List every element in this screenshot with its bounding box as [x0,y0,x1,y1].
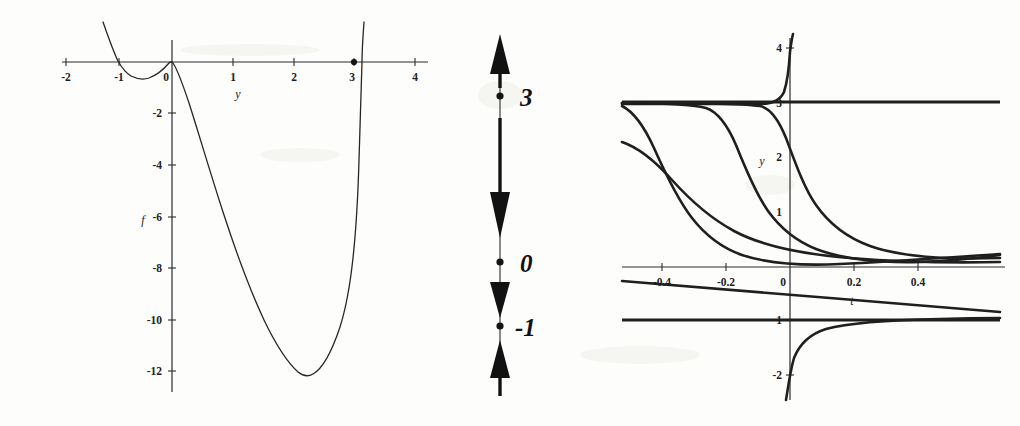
left-xtick-label-2: 0 [163,71,169,83]
right-ttick-label-3: 0.2 [847,276,862,288]
right-ytick-label--2: -2 [772,369,782,381]
left-ytick-label-0: -2 [152,107,162,119]
left-xtick-label-0: -2 [61,71,71,83]
right-ttick-label-1: -0.2 [717,276,735,288]
left-root-marker [351,59,357,65]
figure-container: -2 -1 0 1 2 3 4 -2 -4 -6 -8 -10 -12 y f … [0,0,1020,426]
left-xtick-label-6: 4 [412,71,418,83]
right-ttick-label-4: 0.4 [911,276,926,288]
right-yaxis-label: y [758,154,765,168]
phase-label-3: 3 [519,84,533,111]
phase-label-0: 0 [520,250,533,277]
left-xtick-label-5: 3 [349,71,355,83]
left-ytick-label-5: -12 [147,365,163,377]
right-ytick-label-1: 1 [776,206,782,218]
right-ytick-label-2: 2 [776,151,782,163]
phase-dot-0 [496,258,503,265]
left-xtick-label-1: -1 [114,71,124,83]
left-ytick-label-3: -8 [152,262,162,274]
left-xtick-label-4: 2 [291,71,297,83]
right-ttick-label-2: 0 [780,276,786,288]
left-ytick-label-4: -10 [147,314,163,326]
left-ytick-label-2: -6 [152,211,162,223]
right-ttick-label-0: -0.4 [653,276,671,288]
left-xaxis-label: y [234,87,241,101]
phase-dot--1 [496,322,503,329]
right-ytick-label-4: 4 [776,42,782,54]
figure-svg: -2 -1 0 1 2 3 4 -2 -4 -6 -8 -10 -12 y f … [0,0,1020,426]
left-xtick-label-3: 1 [230,71,236,83]
phase-dot-3 [496,92,503,99]
left-ytick-label-1: -4 [152,159,162,171]
phase-label--1: -1 [515,314,536,341]
